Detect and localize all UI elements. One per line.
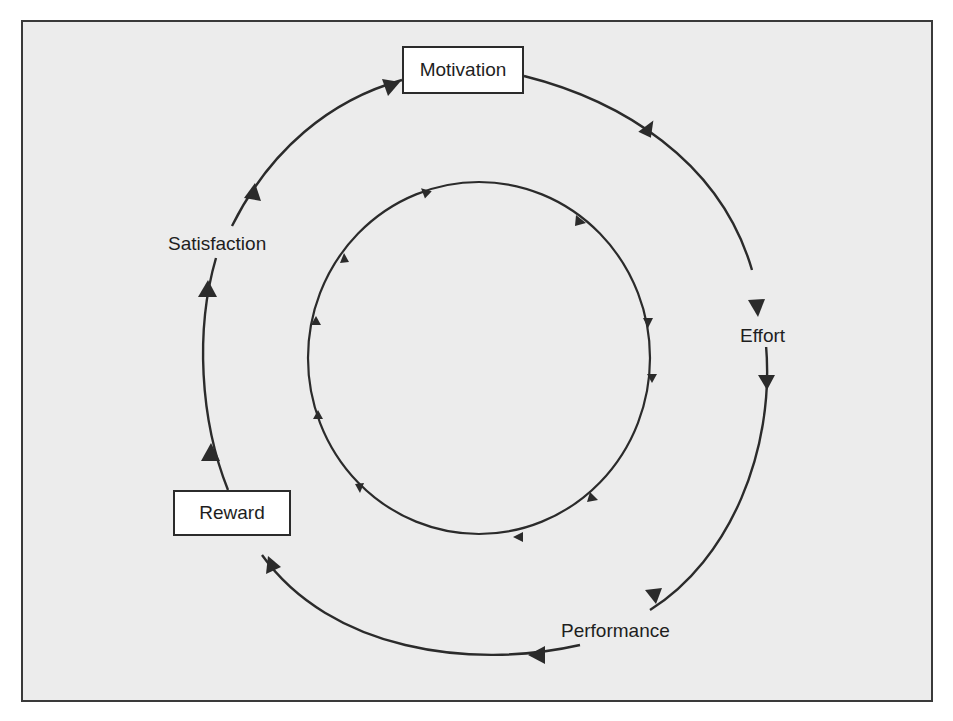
motivation-label: Motivation [420, 59, 507, 81]
outer-cycle [203, 76, 767, 655]
performance-label: Performance [559, 620, 672, 642]
satisfaction-label: Satisfaction [168, 233, 266, 255]
motivation-box: Motivation [402, 46, 524, 94]
reward-box: Reward [173, 490, 291, 536]
inner-cycle [308, 182, 657, 542]
outer-arrowheads [198, 79, 775, 664]
effort-label: Effort [738, 325, 787, 347]
cycle-diagram [0, 0, 953, 721]
reward-label: Reward [199, 502, 264, 524]
